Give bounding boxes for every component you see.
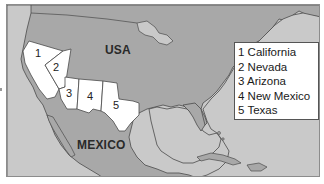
map: USA MEXICO 1 2 3 4 5 1 California 2 Neva… xyxy=(6,4,320,177)
state-number-california: 1 xyxy=(35,47,41,59)
mexico-label: MEXICO xyxy=(77,138,126,152)
legend-item: 5 Texas xyxy=(238,103,318,118)
legend-item: 4 New Mexico xyxy=(238,89,318,104)
legend-item: 2 Nevada xyxy=(238,60,318,75)
legend-item: 3 Arizona xyxy=(238,74,318,89)
state-number-arizona: 3 xyxy=(66,87,72,99)
margin-mark xyxy=(0,88,2,91)
usa-label: USA xyxy=(105,43,131,57)
state-number-nevada: 2 xyxy=(53,61,59,73)
state-number-new-mexico: 4 xyxy=(87,90,93,102)
state-number-texas: 5 xyxy=(113,99,119,111)
legend-item: 1 California xyxy=(238,45,318,60)
map-legend: 1 California 2 Nevada 3 Arizona 4 New Me… xyxy=(234,42,319,120)
